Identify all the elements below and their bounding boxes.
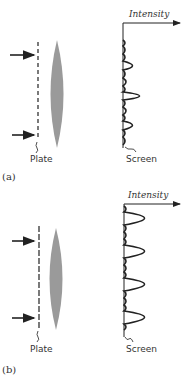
screen-leader [125,337,133,342]
plate-label: Plate [30,154,53,164]
panel-caption: (a) [2,171,16,182]
intensity-label: Intensity [128,9,170,19]
plate-leader [36,142,38,153]
screen-leader [125,147,136,152]
screen-label: Screen [126,344,157,354]
plate-leader [37,331,39,342]
panel-a: Plate Intensity Screen (a) [2,9,180,182]
panel-b: Plate Intensity Screen (b) [2,190,180,375]
plate-label: Plate [30,344,53,354]
panel-caption: (b) [2,364,16,375]
intensity-curve [124,206,145,330]
intensity-label: Intensity [127,190,169,200]
intensity-curve [123,40,140,145]
lens [51,40,64,148]
screen-label: Screen [126,154,157,164]
diffraction-figure: Plate Intensity Screen (a) Plate Intensi… [0,0,192,377]
lens [50,228,63,330]
